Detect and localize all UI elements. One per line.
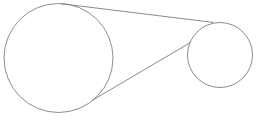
lower-tangent-line: [92, 43, 191, 101]
upper-tangent-line: [61, 4, 213, 23]
geometry-figure-svg: Two circles joined by tangent lines: [0, 0, 261, 124]
geometry-figure-canvas: Two circles joined by tangent lines: [0, 0, 261, 124]
large-circle-shape: [4, 4, 113, 113]
small-circle-shape: [188, 23, 253, 88]
